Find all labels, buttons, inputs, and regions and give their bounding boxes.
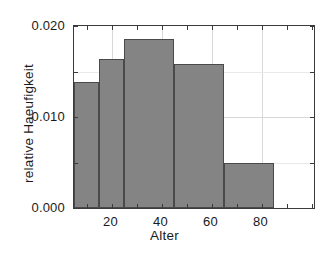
histogram-bar: [174, 64, 224, 208]
y-axis-tick: [73, 117, 78, 118]
y-axis-tick: [73, 72, 78, 73]
y-axis-tick: [310, 163, 315, 164]
x-axis-tick-label: 80: [253, 214, 268, 229]
x-axis-tick-label: 60: [203, 214, 218, 229]
x-axis-tick: [287, 204, 288, 209]
x-axis-tick: [137, 25, 138, 30]
histogram-bar: [224, 163, 274, 208]
x-axis-tick: [112, 25, 113, 30]
x-axis-tick: [112, 204, 113, 209]
x-axis-tick: [87, 204, 88, 209]
x-axis-tick-label: 40: [153, 214, 168, 229]
y-axis-tick: [310, 72, 315, 73]
x-axis-tick: [212, 204, 213, 209]
y-axis-tick-label: 0.020: [0, 18, 65, 33]
plot-inner: [74, 26, 314, 208]
x-axis-tick: [237, 25, 238, 30]
x-axis-tick: [162, 25, 163, 30]
y-axis-tick: [73, 26, 78, 27]
y-axis-title: relative Haeufigkeit: [21, 34, 36, 214]
y-axis-tick: [73, 208, 78, 209]
y-axis-tick: [310, 208, 315, 209]
x-axis-title: Alter: [0, 228, 329, 243]
x-axis-tick: [212, 25, 213, 30]
plot-area: [73, 25, 315, 209]
x-axis-tick: [287, 25, 288, 30]
x-axis-tick: [262, 204, 263, 209]
histogram-bar: [124, 39, 174, 208]
x-axis-tick-label: 20: [103, 214, 118, 229]
y-axis-tick: [73, 163, 78, 164]
x-axis-tick: [87, 25, 88, 30]
x-axis-tick: [262, 25, 263, 30]
x-axis-tick: [237, 204, 238, 209]
histogram-bar: [74, 82, 99, 208]
x-axis-tick: [137, 204, 138, 209]
y-axis-tick: [310, 26, 315, 27]
x-axis-tick: [162, 204, 163, 209]
y-axis-tick: [310, 117, 315, 118]
histogram-figure: 20406080 0.0000.0100.020 Alter relative …: [0, 0, 329, 253]
x-axis-tick: [187, 204, 188, 209]
histogram-bar: [99, 59, 124, 208]
x-axis-tick: [187, 25, 188, 30]
